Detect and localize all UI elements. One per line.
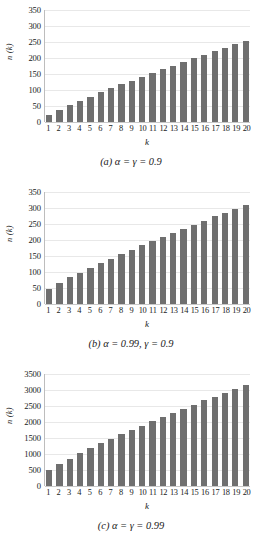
bar — [160, 69, 166, 122]
y-tick-label: 250 — [28, 220, 41, 229]
bar-series — [45, 192, 250, 304]
bar — [232, 44, 238, 122]
y-tick-label: 2500 — [24, 402, 41, 411]
y-tick-label: 350 — [28, 188, 41, 197]
bar — [180, 229, 186, 304]
x-tick-label: 14 — [180, 124, 186, 136]
x-tick-label: 18 — [222, 488, 228, 500]
x-tick-label: 20 — [243, 124, 249, 136]
y-tick-label: 50 — [33, 102, 41, 111]
y-tick-label: 2000 — [24, 418, 41, 427]
x-tick-label: 12 — [159, 124, 165, 136]
y-tick-label: 350 — [28, 6, 41, 15]
x-tick-label: 11 — [149, 124, 155, 136]
x-tick-label: 2 — [55, 124, 61, 136]
x-tick-label: 14 — [180, 306, 186, 318]
bar — [222, 48, 228, 122]
x-tick-label: 10 — [139, 488, 145, 500]
bar — [46, 289, 52, 304]
bar — [139, 245, 145, 304]
y-axis-ticks: 050100150200250300350 — [14, 10, 42, 122]
bar — [191, 405, 197, 486]
x-tick-label: 10 — [139, 124, 145, 136]
y-tick-label: 150 — [28, 252, 41, 261]
x-tick-label: 13 — [170, 488, 176, 500]
x-tick-label: 20 — [243, 306, 249, 318]
x-axis-label: k — [44, 319, 250, 329]
x-tick-label: 3 — [66, 306, 72, 318]
x-tick-label: 6 — [97, 488, 103, 500]
y-tick-label: 300 — [28, 22, 41, 31]
bar — [118, 84, 124, 122]
bar — [201, 400, 207, 486]
bar — [98, 443, 104, 486]
bar — [77, 453, 83, 486]
y-tick-label: 500 — [28, 466, 41, 475]
bar — [139, 77, 145, 122]
y-axis-label: n (k) — [4, 410, 14, 424]
y-tick-label: 0 — [37, 482, 41, 491]
bar — [129, 430, 135, 486]
x-tick-label: 16 — [201, 306, 207, 318]
bar — [77, 101, 83, 122]
x-tick-label: 9 — [128, 124, 134, 136]
y-tick-label: 300 — [28, 204, 41, 213]
bar — [118, 254, 124, 304]
x-tick-label: 15 — [191, 488, 197, 500]
bar — [222, 393, 228, 486]
x-tick-label: 3 — [66, 488, 72, 500]
bar-series — [45, 10, 250, 122]
y-tick-label: 200 — [28, 54, 41, 63]
x-tick-label: 16 — [201, 124, 207, 136]
y-axis-label: n (k) — [4, 46, 14, 60]
bar — [129, 250, 135, 304]
x-tick-label: 17 — [212, 488, 218, 500]
x-tick-label: 12 — [159, 306, 165, 318]
bar — [56, 283, 62, 304]
x-tick-label: 4 — [76, 488, 82, 500]
x-tick-label: 5 — [87, 488, 93, 500]
x-tick-label: 17 — [212, 124, 218, 136]
y-tick-label: 1000 — [24, 450, 41, 459]
x-tick-label: 18 — [222, 124, 228, 136]
y-tick-label: 100 — [28, 86, 41, 95]
y-tick-label: 200 — [28, 236, 41, 245]
y-tick-label: 0 — [37, 118, 41, 127]
plot-area — [44, 374, 250, 486]
plot-area — [44, 10, 250, 122]
x-tick-label: 19 — [232, 488, 238, 500]
x-tick-label: 8 — [118, 488, 124, 500]
bar — [67, 459, 73, 486]
y-tick-label: 1500 — [24, 434, 41, 443]
x-tick-label: 19 — [232, 124, 238, 136]
x-axis-line — [45, 304, 250, 305]
figure-stack: n (k)05010015020025030035012345678910111… — [0, 0, 262, 546]
y-axis-ticks: 0500100015002000250030003500 — [14, 374, 42, 486]
y-axis-ticks: 050100150200250300350 — [14, 192, 42, 304]
bar-chart-c: n (k)05001000150020002500300035001234567… — [0, 364, 262, 514]
x-tick-label: 9 — [128, 488, 134, 500]
x-tick-label: 19 — [232, 306, 238, 318]
x-tick-label: 7 — [107, 124, 113, 136]
x-tick-label: 15 — [191, 306, 197, 318]
x-axis-label: k — [44, 501, 250, 511]
y-tick-label: 150 — [28, 70, 41, 79]
bar — [108, 439, 114, 486]
x-tick-label: 20 — [243, 488, 249, 500]
bar — [232, 389, 238, 486]
x-tick-label: 8 — [118, 124, 124, 136]
bar — [87, 97, 93, 122]
y-tick-label: 50 — [33, 284, 41, 293]
bar — [87, 268, 93, 304]
subfigure-a: n (k)05010015020025030035012345678910111… — [0, 0, 262, 182]
bar-chart-a: n (k)05010015020025030035012345678910111… — [0, 0, 262, 150]
bar — [56, 110, 62, 122]
x-axis-label: k — [44, 137, 250, 147]
subfigure-caption-c: (c) α = γ = 0.99 — [0, 519, 262, 532]
x-tick-label: 18 — [222, 306, 228, 318]
bar — [170, 413, 176, 486]
bar — [232, 209, 238, 304]
bar — [201, 221, 207, 304]
bar — [149, 421, 155, 486]
bar — [118, 434, 124, 486]
